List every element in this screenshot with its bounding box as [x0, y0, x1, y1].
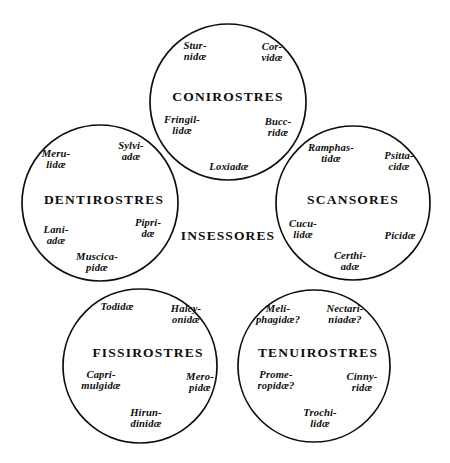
- family-label-line: lidæ: [164, 126, 200, 137]
- family-label-meropidae: Mero-pidæ: [186, 372, 214, 394]
- family-label-line: pidæ: [76, 263, 118, 274]
- family-label-promeropidae: Prome-ropidæ?: [258, 370, 295, 392]
- order-label-scansores: SCANSORES: [307, 193, 399, 207]
- family-label-sylviadae: Sylvi-adæ: [118, 141, 144, 163]
- family-label-line: lidæ: [303, 419, 337, 430]
- family-label-cinnyridae: Cinny-ridæ: [347, 372, 378, 394]
- family-label-cuculidae: Cucu-lidæ: [289, 219, 317, 241]
- family-label-line: cidæ: [384, 162, 413, 173]
- family-label-certhiadae: Certhi-adæ: [334, 251, 366, 273]
- family-label-todidae: Todidæ: [101, 302, 134, 313]
- family-label-line: dæ: [135, 229, 161, 240]
- insessores-diagram-plate: CONIROSTRESStur-nidæCor-vidæFringil-lidæ…: [0, 0, 450, 463]
- family-label-sturnidae: Stur-nidæ: [183, 41, 206, 63]
- order-label-dentirostres: DENTIROSTRES: [44, 193, 164, 207]
- family-label-line: ridæ: [347, 383, 378, 394]
- family-label-line: dinidæ: [130, 419, 162, 430]
- family-label-hirundinidae: Hirun-dinidæ: [130, 408, 162, 430]
- family-label-line: tidæ: [308, 154, 354, 165]
- order-label-tenuirostres: TENUIROSTRES: [258, 346, 378, 360]
- family-label-ramphastidae: Ramphas-tidæ: [308, 143, 354, 165]
- family-label-line: Todidæ: [101, 302, 134, 313]
- family-label-line: adæ: [118, 152, 144, 163]
- family-label-line: lidæ: [42, 160, 70, 171]
- family-label-line: phagidæ?: [256, 315, 300, 326]
- family-label-pipridae: Pipri-dæ: [135, 218, 161, 240]
- family-label-line: onidæ: [171, 315, 201, 326]
- order-label-fissirostres: FISSIROSTRES: [92, 346, 203, 360]
- family-label-meliphagidae: Meli-phagidæ?: [256, 304, 300, 326]
- family-label-laniadae: Lani-adæ: [44, 225, 69, 247]
- family-label-line: Picidæ: [385, 231, 416, 242]
- family-label-line: ropidæ?: [258, 381, 295, 392]
- family-label-nectariniadae: Nectari-niadæ?: [326, 304, 363, 326]
- family-label-line: vidæ: [261, 53, 282, 64]
- family-label-line: adæ: [44, 236, 69, 247]
- family-label-line: Loxiadæ: [209, 162, 248, 173]
- family-label-psittacidae: Psitta-cidæ: [384, 151, 413, 173]
- family-label-halcyonidae: Halcy-onidæ: [171, 304, 201, 326]
- family-label-line: ridæ: [265, 128, 292, 139]
- family-label-line: nidæ: [183, 52, 206, 63]
- family-label-loxiadae: Loxiadæ: [209, 162, 248, 173]
- family-label-fringillidae: Fringil-lidæ: [164, 115, 200, 137]
- family-label-picidae: Picidæ: [385, 231, 416, 242]
- family-label-line: mulgidæ: [81, 381, 120, 392]
- family-label-line: adæ: [334, 262, 366, 273]
- family-label-line: pidæ: [186, 383, 214, 394]
- family-label-line: lidæ: [289, 230, 317, 241]
- family-label-merulidae: Meru-lidæ: [42, 149, 70, 171]
- family-label-buceridae: Bucc-ridæ: [265, 117, 292, 139]
- family-label-trochilidae: Trochi-lidæ: [303, 408, 337, 430]
- family-label-corvidae: Cor-vidæ: [261, 42, 282, 64]
- center-label-insessores: INSESSORES: [181, 229, 275, 243]
- family-label-line: niadæ?: [326, 315, 363, 326]
- order-label-conirostres: CONIROSTRES: [172, 90, 283, 104]
- family-label-caprimulgidae: Capri-mulgidæ: [81, 370, 120, 392]
- family-label-muscicapidae: Muscica-pidæ: [76, 252, 118, 274]
